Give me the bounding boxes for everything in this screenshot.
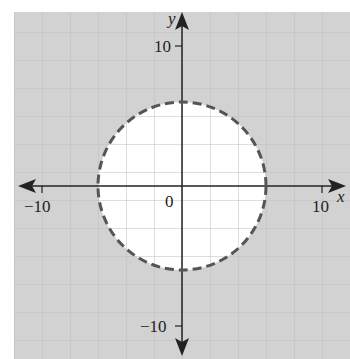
x-tick-10: 10 — [312, 197, 329, 216]
y-tick-neg10: −10 — [140, 317, 167, 336]
x-tick-neg10: −10 — [24, 197, 51, 216]
y-axis-label: y — [166, 9, 176, 28]
y-tick-10: 10 — [154, 37, 171, 56]
origin-label: 0 — [165, 192, 174, 211]
graph: −10 10 x 0 10 −10 y — [0, 0, 350, 359]
x-axis-label: x — [336, 187, 345, 206]
